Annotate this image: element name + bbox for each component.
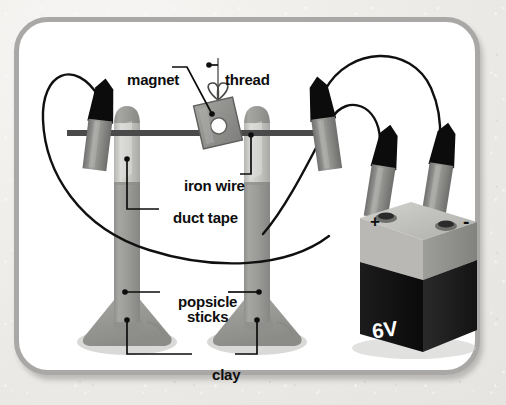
magnet bbox=[194, 97, 243, 149]
label-battery-negative: - bbox=[463, 212, 469, 231]
label-clay: clay bbox=[212, 367, 240, 382]
figure-frame: magnet thread iron wire duct tape popsic… bbox=[14, 17, 480, 375]
label-popsicle-line1: popsicle bbox=[178, 294, 237, 309]
clip-tip-left bbox=[87, 77, 118, 124]
popsicle-stick-right bbox=[244, 106, 270, 322]
alligator-clip-battery-negative bbox=[421, 121, 461, 218]
label-battery-positive: + bbox=[370, 213, 380, 230]
label-duct-tape: duct tape bbox=[173, 210, 238, 225]
wire-left-to-battery bbox=[43, 74, 329, 263]
popsicle-stick-left bbox=[114, 106, 140, 322]
wire-top-right bbox=[325, 56, 440, 140]
alligator-clip-battery-positive bbox=[363, 123, 403, 220]
clip-tip-positive bbox=[371, 123, 404, 171]
label-magnet: magnet bbox=[127, 72, 179, 87]
label-battery-voltage: 6V bbox=[371, 317, 399, 344]
alligator-clip-left bbox=[81, 77, 118, 171]
label-popsicle-sticks: popsicle sticks bbox=[178, 294, 237, 325]
label-iron-wire: iron wire bbox=[184, 178, 245, 193]
label-thread: thread bbox=[225, 72, 270, 87]
label-popsicle-line2: sticks bbox=[178, 309, 237, 324]
clip-tip-negative bbox=[428, 121, 461, 169]
figure-stage: magnet thread iron wire duct tape popsic… bbox=[0, 0, 506, 405]
